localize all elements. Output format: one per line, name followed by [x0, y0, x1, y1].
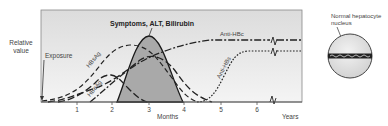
tick-label: 3 [147, 106, 151, 113]
cell-label-line2: nucleus [331, 20, 352, 26]
years-axis-label: Years [282, 113, 299, 120]
hepatitis-b-serology-diagram: 1 2 3 4 5 6 Months Years Relative value … [0, 0, 388, 126]
anti-hbc-label: Anti-HBc [220, 31, 244, 37]
dna-strand-icon [328, 54, 372, 59]
tick-label: 2 [110, 106, 114, 113]
months-axis-label: Months [157, 113, 179, 120]
tick-label: 4 [182, 106, 186, 113]
cell-label-line1: Normal hepatocyte [331, 13, 382, 19]
tick-label: 1 [75, 106, 79, 113]
peak-label: Symptoms, ALT, Bilirubin [110, 20, 194, 28]
y-axis-label-line2: value [13, 47, 29, 54]
y-axis-label-line1: Relative [9, 39, 33, 46]
tick-label: 5 [219, 106, 223, 113]
exposure-label: Exposure [45, 52, 73, 60]
tick-label: 6 [255, 106, 259, 113]
cell-label-leader [337, 27, 341, 37]
